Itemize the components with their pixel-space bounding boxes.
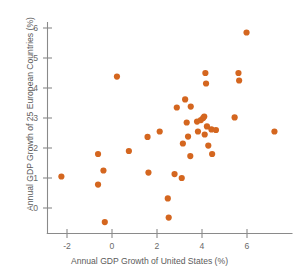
data-point bbox=[100, 167, 106, 173]
data-point bbox=[180, 140, 186, 146]
data-point bbox=[187, 153, 193, 159]
y-tick-label: 0 bbox=[33, 203, 38, 213]
x-tick-label: -2 bbox=[63, 241, 71, 251]
data-point bbox=[184, 119, 190, 125]
data-point bbox=[174, 104, 180, 110]
data-point bbox=[236, 77, 242, 83]
y-tick-label: 5 bbox=[33, 53, 38, 63]
data-point bbox=[213, 127, 219, 133]
data-point bbox=[145, 170, 151, 176]
x-tick-label: 2 bbox=[155, 241, 160, 251]
y-axis-ticks: 0123456 bbox=[33, 23, 52, 213]
data-point bbox=[271, 128, 277, 134]
y-tick-label: 1 bbox=[33, 173, 38, 183]
x-axis-ticks: -20246 bbox=[63, 229, 249, 251]
data-point bbox=[166, 215, 172, 221]
data-point bbox=[126, 148, 132, 154]
data-point bbox=[202, 70, 208, 76]
data-point bbox=[95, 151, 101, 157]
data-point bbox=[157, 128, 163, 134]
y-tick-label: 4 bbox=[33, 83, 38, 93]
data-point bbox=[179, 175, 185, 181]
x-tick-label: 0 bbox=[110, 241, 115, 251]
y-tick-label: 2 bbox=[33, 143, 38, 153]
plot-canvas: 0123456-20246 bbox=[0, 0, 299, 278]
data-point bbox=[188, 104, 194, 110]
data-point-series bbox=[58, 29, 277, 225]
data-point bbox=[114, 74, 120, 80]
data-point bbox=[102, 219, 108, 225]
data-point bbox=[171, 171, 177, 177]
y-tick-label: 3 bbox=[33, 113, 38, 123]
data-point bbox=[203, 80, 209, 86]
data-point bbox=[205, 143, 211, 149]
data-point bbox=[202, 131, 208, 137]
data-point bbox=[58, 173, 64, 179]
data-point bbox=[165, 195, 171, 201]
data-point bbox=[144, 134, 150, 140]
data-point bbox=[232, 114, 238, 120]
data-point bbox=[182, 96, 188, 102]
data-point bbox=[235, 70, 241, 76]
data-point bbox=[195, 128, 201, 134]
data-point bbox=[185, 134, 191, 140]
data-point bbox=[201, 113, 207, 119]
data-point bbox=[95, 182, 101, 188]
x-tick-label: 6 bbox=[245, 241, 250, 251]
data-point bbox=[209, 151, 215, 157]
data-point bbox=[243, 29, 249, 35]
x-tick-label: 4 bbox=[200, 241, 205, 251]
scatter-plot-figure: 0123456-20246 Annual GDP Growth of 25 Eu… bbox=[0, 0, 299, 278]
y-tick-label: 6 bbox=[33, 23, 38, 33]
